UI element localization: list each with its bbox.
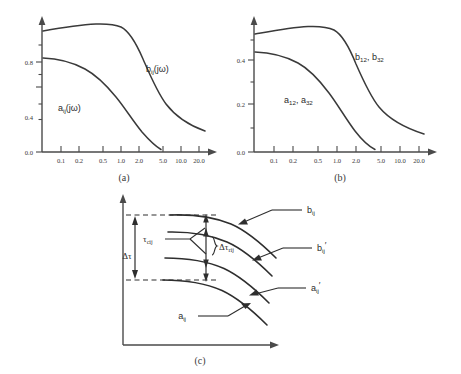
panel-b-xtick-1: 0.2 bbox=[289, 157, 297, 164]
panel-b-xtick-5: 5.0 bbox=[377, 157, 386, 164]
panel-b-curve-b bbox=[255, 26, 424, 134]
panel-b-y-axis-arrowhead bbox=[251, 16, 258, 25]
panel-a-label-b-tail: (jω) bbox=[154, 64, 169, 74]
panel-b-xtick-2: 0.5 bbox=[314, 157, 323, 164]
panel-b-label-a-sub2: 32 bbox=[306, 99, 313, 106]
svg-text:aij(jω): aij(jω) bbox=[58, 103, 81, 114]
panel-b-ytick-2: 0.4 bbox=[237, 57, 246, 64]
panel-a-ytick-0: 0.0 bbox=[25, 149, 34, 156]
panel-c-label-a: aij bbox=[178, 311, 186, 322]
panel-a-xtick-4: 2.0 bbox=[135, 157, 144, 164]
panel-c-delta-tau-label: Δτ bbox=[122, 251, 132, 261]
panel-b-label-b: b12, b32 bbox=[355, 52, 384, 63]
panel-c-label-b-leader2 bbox=[244, 210, 272, 222]
panel-c-delta-tau-arrowhead-top bbox=[132, 216, 138, 225]
panel-c-label-b-arrowhead bbox=[238, 219, 248, 225]
panel-c-caption: (c) bbox=[194, 355, 205, 367]
panel-a-xtick-7: 20.0 bbox=[193, 157, 205, 164]
panel-b-xtick-3: 1.0 bbox=[333, 157, 342, 164]
panel-b-ytick-1: 0.2 bbox=[237, 101, 245, 108]
panel-c-label-ap-arrowhead bbox=[249, 290, 259, 296]
panel-c-y-axis-arrowhead bbox=[120, 194, 127, 203]
panel-c-label-b-prime: bij′ bbox=[317, 240, 327, 255]
panel-b-xtick-0: 0.1 bbox=[270, 157, 278, 164]
panel-c-label-a-leader2 bbox=[228, 306, 245, 316]
panel-b-label-b-sub2: 32 bbox=[377, 56, 384, 63]
panel-b-xtick-6: 10.0 bbox=[394, 157, 406, 164]
panel-a-x-axis-arrowhead bbox=[208, 149, 217, 156]
panel-a-label-a: aij(jω) bbox=[58, 103, 81, 114]
panel-c-delta-tau-arrowhead-bottom bbox=[132, 270, 138, 279]
panel-a-xtick-0: 0.1 bbox=[57, 157, 65, 164]
panel-c-label-bp-leader2 bbox=[258, 248, 283, 258]
panel-c-label-a-prime: aij′ bbox=[311, 280, 321, 295]
panel-a: 0.0 0.4 0.8 0.1 0.2 0.5 1.0 2.0 5.0 10.0… bbox=[25, 16, 217, 184]
panel-b-xtick-7: 20.0 bbox=[413, 157, 425, 164]
panel-a-caption: (a) bbox=[118, 172, 129, 184]
panel-a-y-axis-arrowhead bbox=[39, 16, 46, 25]
panel-b-ytick-0: 0.0 bbox=[237, 149, 246, 156]
panel-b-label-a: a12, a32 bbox=[284, 95, 313, 106]
panel-c-label-b: bij bbox=[307, 205, 315, 216]
svg-text:b12, b32: b12, b32 bbox=[355, 52, 384, 63]
panel-c-tau-cij-leader-lower bbox=[190, 239, 206, 254]
panel-a-label-a-tail: (jω) bbox=[66, 103, 81, 113]
panel-c-brace bbox=[212, 237, 217, 255]
panel-a-curve-b bbox=[43, 24, 205, 131]
panel-a-xtick-1: 0.2 bbox=[75, 157, 83, 164]
svg-text:a12, a32: a12, a32 bbox=[284, 95, 313, 106]
panel-c-label-bp-arrowhead bbox=[252, 255, 262, 261]
panel-b-label-b-mid: , b bbox=[367, 52, 377, 62]
panel-c-tau-cij-label: τcij bbox=[143, 234, 153, 245]
panel-a-xtick-2: 0.5 bbox=[99, 157, 108, 164]
panel-b-caption: (b) bbox=[334, 172, 346, 184]
panel-b-x-axis-arrowhead bbox=[428, 149, 437, 156]
panel-c-x-axis-arrowhead bbox=[270, 342, 279, 349]
panel-a-ytick-2: 0.8 bbox=[25, 59, 34, 66]
panel-a-xtick-6: 10.0 bbox=[175, 157, 187, 164]
panel-b-xtick-4: 2.0 bbox=[352, 157, 361, 164]
panel-b: 0.0 0.2 0.4 0.1 0.2 0.5 1.0 2.0 5.0 10.0… bbox=[237, 16, 437, 184]
panel-a-xtick-3: 1.0 bbox=[117, 157, 126, 164]
panel-c-central-arrowhead-3 bbox=[203, 274, 209, 283]
panel-a-ytick-1: 0.4 bbox=[25, 114, 34, 121]
panel-b-label-a-mid: , a bbox=[296, 95, 306, 105]
figure-container: 0.0 0.4 0.8 0.1 0.2 0.5 1.0 2.0 5.0 10.0… bbox=[0, 0, 461, 374]
panel-c: Δτ τcij Δτrij bij bij′ bbox=[120, 194, 327, 367]
panel-a-label-b: bij(jω) bbox=[146, 64, 169, 75]
panel-a-xtick-5: 5.0 bbox=[159, 157, 168, 164]
svg-text:bij(jω): bij(jω) bbox=[146, 64, 169, 75]
panel-c-label-ap-leader2 bbox=[255, 288, 278, 294]
